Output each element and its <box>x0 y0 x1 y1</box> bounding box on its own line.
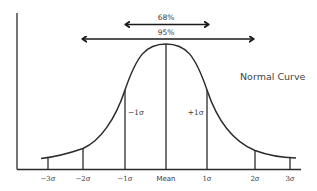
label-68: 68% <box>158 13 175 22</box>
tick-plus-1-sigma: 1σ <box>202 175 211 183</box>
tick-plus-3-sigma: 3σ <box>285 175 294 183</box>
label-95: 95% <box>158 28 175 37</box>
tick-mean: Mean <box>156 175 175 183</box>
tick-minus-2-sigma: −2σ <box>75 175 90 183</box>
normal-curve-diagram: 68% 95% Normal Curve −1σ +1σ −3σ −2σ −1σ… <box>0 0 317 191</box>
chart-title: Normal Curve <box>240 71 306 82</box>
inner-label-minus-1-sigma: −1σ <box>128 108 144 117</box>
tick-plus-2-sigma: 2σ <box>250 175 259 183</box>
tick-minus-1-sigma: −1σ <box>117 175 132 183</box>
inner-label-plus-1-sigma: +1σ <box>188 108 204 117</box>
percentage-arrows: 68% 95% <box>83 13 253 39</box>
tick-minus-3-sigma: −3σ <box>40 175 55 183</box>
bell-curve <box>41 44 296 159</box>
x-tick-labels: −3σ −2σ −1σ Mean 1σ 2σ 3σ <box>40 175 294 183</box>
